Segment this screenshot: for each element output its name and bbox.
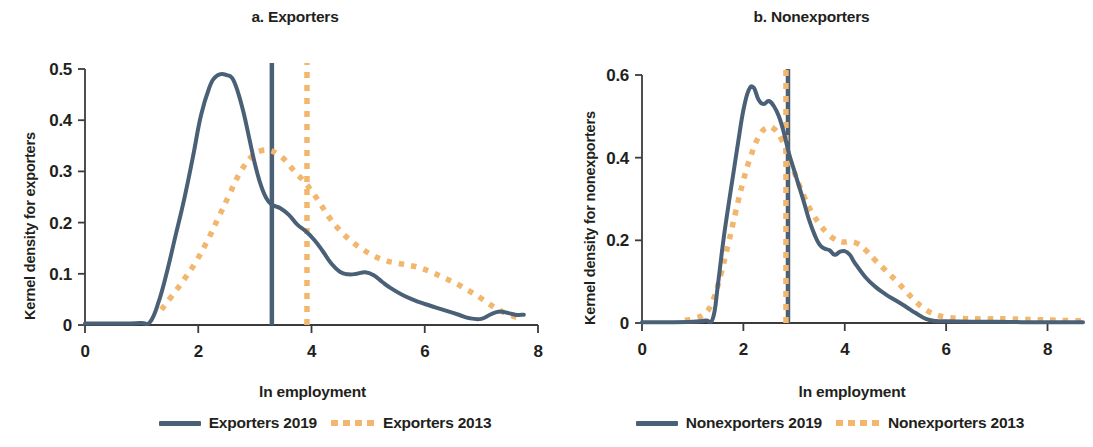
y-axis-tick-label: 0.4 [606, 149, 630, 168]
y-axis-tick-label: 0.6 [606, 66, 629, 85]
x-axis-tick-label: 8 [533, 342, 542, 361]
x-axis-tick-label: 2 [194, 342, 203, 361]
x-axis-tick-label: 8 [1043, 340, 1052, 359]
panel-b-legend: Nonexporters 2019 Nonexporters 2013 [580, 414, 1080, 432]
y-axis-tick-label: 0 [63, 316, 72, 335]
panel-a-plot: 00.10.20.30.40.502468 [0, 0, 550, 380]
x-axis-tick-label: 0 [80, 342, 89, 361]
y-axis-tick-label: 0.5 [49, 60, 72, 79]
x-axis-tick-label: 4 [840, 340, 850, 359]
legend-item-exporters-2019: Exporters 2019 [159, 414, 317, 432]
solid-line-swatch-icon [159, 421, 201, 426]
series-line-exporters-2013 [161, 150, 521, 319]
legend-label-nonexporters-2019: Nonexporters 2019 [686, 414, 822, 432]
panel-nonexporters: b. Nonexporters Kernel density for nonex… [550, 0, 1093, 447]
legend-item-exporters-2013: Exporters 2013 [331, 414, 491, 432]
panel-b-plot: 00.20.40.602468 [550, 0, 1093, 380]
legend-label-nonexporters-2013: Nonexporters 2013 [888, 414, 1024, 432]
x-axis-tick-label: 0 [637, 340, 646, 359]
dashed-line-swatch-icon [836, 420, 880, 426]
x-axis-tick-label: 2 [739, 340, 748, 359]
dashed-line-swatch-icon [331, 420, 375, 426]
y-axis-tick-label: 0.2 [49, 214, 72, 233]
legend-label-exporters-2019: Exporters 2019 [209, 414, 317, 432]
x-axis-tick-label: 6 [942, 340, 951, 359]
y-axis-tick-label: 0.1 [49, 265, 72, 284]
y-axis-tick-label: 0.2 [606, 231, 629, 250]
y-axis-tick-label: 0 [620, 314, 629, 333]
y-axis-tick-label: 0.4 [49, 111, 73, 130]
x-axis-tick-label: 4 [307, 342, 317, 361]
legend-item-nonexporters-2019: Nonexporters 2019 [636, 414, 822, 432]
figure-root: a. Exporters Kernel density for exporter… [0, 0, 1093, 447]
panel-exporters: a. Exporters Kernel density for exporter… [0, 0, 550, 447]
legend-item-nonexporters-2013: Nonexporters 2013 [836, 414, 1024, 432]
panel-a-x-axis-label: ln employment [85, 383, 540, 401]
x-axis-tick-label: 6 [420, 342, 429, 361]
solid-line-swatch-icon [636, 421, 678, 426]
series-line-nonexporters-2019 [642, 86, 1083, 322]
legend-label-exporters-2013: Exporters 2013 [383, 414, 491, 432]
panel-a-legend: Exporters 2019 Exporters 2013 [110, 414, 540, 432]
panel-b-x-axis-label: ln employment [642, 383, 1062, 401]
y-axis-tick-label: 0.3 [49, 162, 72, 181]
